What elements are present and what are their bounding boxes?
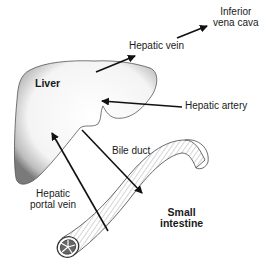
label-inferior-vena-cava: Inferior vena cava bbox=[213, 6, 259, 28]
inferior-vena-cava-arrow bbox=[177, 26, 207, 38]
label-line: vena cava bbox=[213, 17, 259, 28]
label-line: Inferior bbox=[213, 6, 259, 17]
label-hepatic-portal-vein: Hepatic portal vein bbox=[30, 188, 76, 210]
bile-duct-arrow bbox=[82, 130, 142, 193]
label-bile-duct: Bile duct bbox=[112, 145, 150, 156]
small-intestine-shape bbox=[62, 140, 205, 255]
label-small-intestine: Small intestine bbox=[160, 207, 203, 229]
label-liver: Liver bbox=[35, 78, 60, 89]
label-hepatic-artery: Hepatic artery bbox=[185, 100, 247, 111]
label-line: intestine bbox=[160, 218, 203, 229]
label-hepatic-vein: Hepatic vein bbox=[129, 40, 184, 51]
label-line: Hepatic bbox=[30, 188, 76, 199]
label-line: portal vein bbox=[30, 199, 76, 210]
liver-circulation-diagram: Inferior vena cava Hepatic vein Liver He… bbox=[0, 0, 269, 276]
